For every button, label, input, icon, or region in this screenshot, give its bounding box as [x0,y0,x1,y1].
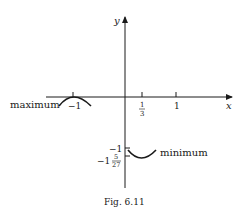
minimum-label: minimum [160,147,208,158]
x-tick-label-third-den: 3 [140,110,144,118]
figure-caption: Fig. 6.11 [104,197,145,207]
minimum-curve [128,150,156,158]
y-tick-label-whole: −1 [97,156,110,166]
maximum-label: maximum [10,99,60,110]
y-tick-label-den: 27 [112,161,120,169]
x-axis-label: x [226,100,232,111]
figure-canvas: y x −1 1 3 1 −1 −1 5 27 maximum minimum … [0,0,245,222]
y-axis-label: y [113,15,120,26]
x-tick-label-1: 1 [174,101,180,111]
x-tick-label-third-num: 1 [140,101,144,109]
y-tick-label-num: 5 [114,153,118,161]
x-tick-label-neg1: −1 [68,101,81,111]
